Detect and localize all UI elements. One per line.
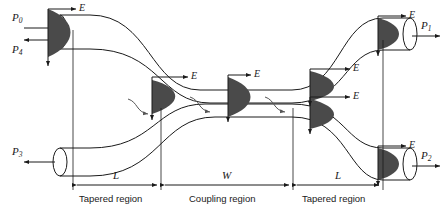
waveguide-upper-top-edge	[90, 15, 383, 90]
port-label-p1: P1	[421, 20, 431, 33]
cone-p0	[48, 9, 71, 57]
port-label-p3: P3	[12, 146, 22, 159]
coupler-diagram: P0 P4 P3 P1 P2 E E E E E E E L W L Taper…	[0, 0, 445, 217]
port-label-p4: P4	[12, 44, 22, 57]
field-label-e-p1: E	[409, 10, 415, 20]
field-label-e-out-top: E	[353, 63, 359, 73]
cone-mid-c	[228, 77, 251, 117]
field-label-e-input: E	[79, 3, 85, 13]
cone-out-b	[310, 99, 334, 129]
field-label-e-p2: E	[409, 140, 415, 150]
mode-profile-cones	[48, 9, 399, 180]
field-label-e-mid-left: E	[191, 71, 197, 81]
region-label-right-taper: Tapered region	[302, 194, 365, 204]
field-label-e-mid-center: E	[254, 69, 260, 79]
diagram-canvas	[0, 0, 445, 217]
port-p3-fiber	[53, 148, 90, 176]
field-label-e-out-bottom: E	[353, 91, 359, 101]
dimension-symbol-left-taper: L	[113, 170, 119, 181]
dimension-symbol-right-taper: L	[335, 170, 341, 181]
port-label-p2: P2	[421, 150, 431, 163]
cone-p1	[378, 18, 399, 50]
cone-mid-l	[152, 80, 175, 114]
region-label-left-taper: Tapered region	[79, 194, 142, 204]
port-label-p0: P0	[12, 12, 22, 25]
cone-p2	[378, 148, 399, 180]
dimension-symbol-coupling: W	[222, 170, 231, 181]
region-label-coupling: Coupling region	[189, 194, 256, 204]
